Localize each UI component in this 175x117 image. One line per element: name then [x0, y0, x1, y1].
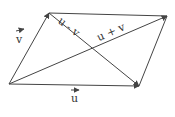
- vector-u: [9, 84, 139, 86]
- svg-text:u - v: u - v: [55, 14, 83, 40]
- vector-diagram: v u u - v u + v: [0, 0, 175, 117]
- label-v: v: [15, 29, 24, 46]
- side-top: [49, 13, 167, 16]
- svg-text:u: u: [71, 92, 78, 105]
- label-u-minus-v: u - v: [55, 14, 83, 40]
- vector-v: [9, 13, 49, 84]
- vector-u-plus-v: [9, 16, 167, 84]
- label-u: u: [71, 90, 79, 105]
- svg-text:v: v: [15, 33, 23, 46]
